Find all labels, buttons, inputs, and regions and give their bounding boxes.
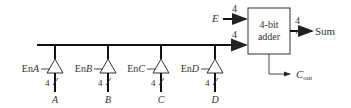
adder-bus-diagram: 4 E 4 4-bit adder 4 Sum Cout 4 EnA A 4 E… — [0, 0, 351, 108]
sum-width-label: 4 — [295, 15, 300, 26]
svg-text:4: 4 — [151, 78, 156, 88]
enable-label-c: EnC — [127, 63, 145, 74]
svg-text:4: 4 — [205, 78, 210, 88]
buffer-d: 4 EnD D — [181, 45, 223, 105]
buffer-a: 4 EnA A — [22, 45, 63, 105]
adder-label-2: adder — [258, 31, 281, 42]
enable-label-a: EnA — [22, 63, 40, 74]
svg-text:4: 4 — [98, 78, 103, 88]
e-width-label: 4 — [232, 3, 237, 14]
bus-width-label: 4 — [232, 29, 237, 40]
cout-line — [269, 54, 290, 74]
enable-label-b: EnB — [75, 63, 92, 74]
input-label-a: A — [51, 94, 59, 105]
e-input-label: E — [211, 12, 219, 24]
adder-label-1: 4-bit — [260, 19, 279, 30]
enable-label-d: EnD — [181, 63, 200, 74]
buffer-b: 4 EnB B — [75, 45, 116, 105]
svg-text:4: 4 — [45, 78, 50, 88]
input-label-c: C — [158, 94, 165, 105]
input-label-b: B — [105, 94, 111, 105]
input-label-d: D — [210, 94, 219, 105]
sum-label: Sum — [315, 25, 336, 37]
cout-label: Cout — [296, 68, 312, 82]
buffer-c: 4 EnC C — [127, 45, 169, 105]
